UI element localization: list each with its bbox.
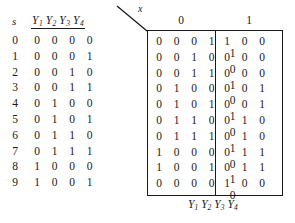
- table-row: 1 0001: [0, 50, 125, 66]
- bit: 1: [84, 176, 96, 188]
- bit: 1: [188, 51, 200, 63]
- next-state-bits: 0010: [153, 51, 218, 63]
- bit: 1: [256, 146, 268, 158]
- bit: 0: [153, 114, 165, 126]
- bit: 0: [188, 146, 200, 158]
- state-value: 0: [10, 34, 20, 46]
- state-bits: 0100: [31, 97, 96, 109]
- bit: 0: [153, 98, 165, 110]
- table-row: 0 0000: [0, 34, 125, 50]
- bit: 1: [153, 146, 165, 158]
- bit: 0: [256, 67, 268, 79]
- bit: 1: [221, 177, 233, 189]
- state-table-header: s Y1Y2Y3Y4: [0, 14, 125, 34]
- input-axis-label: x: [138, 3, 142, 14]
- bit: 0: [239, 67, 251, 79]
- next-state-box: 0001 0010 0011 0100 0101 0110 0111 1000 …: [147, 30, 283, 196]
- bit: 1: [66, 145, 78, 157]
- next-state-bits: 0100: [153, 82, 218, 94]
- next-state-bits: 0001: [153, 35, 218, 47]
- state-value: 5: [10, 113, 20, 125]
- next-state-bits: 1000: [153, 146, 218, 158]
- bit: 0: [153, 35, 165, 47]
- bit: 0: [206, 51, 218, 63]
- bit: 1: [206, 161, 218, 173]
- bit: 0: [256, 114, 268, 126]
- bit: 0: [49, 66, 61, 78]
- bit: 0: [153, 177, 165, 189]
- bit: 0: [206, 82, 218, 94]
- table-row: 1001: [221, 35, 282, 51]
- state-value: 1: [10, 50, 20, 62]
- table-row: 0001: [153, 35, 218, 51]
- bit: 0: [206, 114, 218, 126]
- bit: 1: [66, 129, 78, 141]
- bit: 0: [206, 177, 218, 189]
- table-row: 0110: [153, 114, 218, 130]
- bit: 1: [239, 114, 251, 126]
- bit: 0: [31, 145, 43, 157]
- table-row: 0101: [153, 98, 218, 114]
- table-row: 8 1000: [0, 160, 125, 176]
- table-row: 0111: [153, 130, 218, 146]
- bit: 0: [31, 34, 43, 46]
- bit: 1: [49, 113, 61, 125]
- bit: 1: [171, 98, 183, 110]
- bit: 0: [66, 50, 78, 62]
- table-row: 4 0100: [0, 97, 125, 113]
- bit: 0: [31, 50, 43, 62]
- table-row: 0000: [153, 177, 218, 193]
- bit: 0: [171, 177, 183, 189]
- bit: 1: [49, 145, 61, 157]
- bit: 0: [66, 113, 78, 125]
- bit: 1: [171, 130, 183, 142]
- bit: 1: [256, 161, 268, 173]
- bit: 0: [31, 113, 43, 125]
- bit: 1: [49, 129, 61, 141]
- table-row: 1000: [221, 177, 282, 193]
- bit: 0: [206, 146, 218, 158]
- input-header-0: 0: [171, 14, 191, 26]
- bit: 0: [221, 67, 233, 79]
- bit: 0: [66, 176, 78, 188]
- bit: 0: [66, 34, 78, 46]
- bit: 0: [239, 98, 251, 110]
- bit: 1: [84, 81, 96, 93]
- bit: 1: [206, 98, 218, 110]
- table-row: 6 0110: [0, 129, 125, 145]
- bit: 0: [221, 130, 233, 142]
- bit: 0: [256, 51, 268, 63]
- bit: 1: [206, 130, 218, 142]
- bit: 0: [31, 129, 43, 141]
- bit: 0: [239, 35, 251, 47]
- table-row: 0010: [153, 51, 218, 67]
- table-row: 0110: [221, 146, 282, 162]
- bit: 0: [84, 66, 96, 78]
- table-row: 1001: [153, 161, 218, 177]
- bit: 1: [66, 81, 78, 93]
- bit: 0: [256, 130, 268, 142]
- table-row: 0111: [221, 161, 282, 177]
- bit: 0: [66, 160, 78, 172]
- state-value: 7: [10, 145, 20, 157]
- table-row: 1000: [153, 146, 218, 162]
- bit: 1: [206, 35, 218, 47]
- table-row: 0001: [221, 67, 282, 83]
- bit: 1: [188, 130, 200, 142]
- bit: 0: [171, 146, 183, 158]
- bit: 0: [49, 81, 61, 93]
- bit: 0: [171, 67, 183, 79]
- bit: 0: [256, 35, 268, 47]
- next-state-var-3: Y3: [214, 198, 224, 210]
- bit: 0: [31, 97, 43, 109]
- bit: 0: [49, 160, 61, 172]
- state-value: 9: [10, 176, 20, 188]
- bit: 1: [31, 176, 43, 188]
- output-var-2: Y2: [46, 14, 57, 26]
- state-bits: 1001: [31, 176, 96, 188]
- bit: 0: [188, 177, 200, 189]
- bit: 1: [84, 50, 96, 62]
- state-column-header: s: [12, 15, 16, 27]
- bit: 1: [239, 130, 251, 142]
- table-row: 5 0101: [0, 113, 125, 129]
